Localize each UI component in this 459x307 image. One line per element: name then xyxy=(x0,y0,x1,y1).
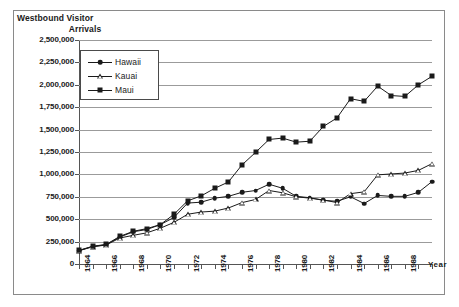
data-point-maui xyxy=(90,244,95,249)
x-axis-tick xyxy=(364,265,365,269)
data-point-hawaii xyxy=(267,182,272,187)
chart-title: Westbound Visitor Arrivals xyxy=(17,13,147,35)
data-point-kauai xyxy=(293,194,299,199)
data-point-maui xyxy=(117,234,122,239)
x-axis-tick xyxy=(310,265,311,269)
legend-item-maui: Maui xyxy=(81,83,158,97)
x-axis-tick xyxy=(133,265,134,269)
data-point-maui xyxy=(239,162,244,167)
data-point-maui xyxy=(158,222,163,227)
x-axis-tick xyxy=(79,265,80,269)
chart-title-line2: Arrivals xyxy=(17,24,147,35)
x-axis-tick xyxy=(106,265,107,269)
data-point-maui xyxy=(416,82,421,87)
data-point-hawaii xyxy=(212,196,217,201)
x-axis-label: 1984 xyxy=(355,255,364,272)
y-axis-label: 2,250,000 xyxy=(39,57,74,66)
x-axis-label: 1964 xyxy=(83,255,92,272)
y-axis-label: 1,250,000 xyxy=(39,147,74,156)
data-point-kauai xyxy=(185,212,191,217)
data-point-kauai xyxy=(198,210,204,215)
data-point-kauai xyxy=(171,220,177,225)
x-axis-tick xyxy=(323,265,324,269)
y-axis-labels: 2,500,0002,250,0002,000,0001,750,0001,50… xyxy=(0,40,74,265)
x-axis-label: 1980 xyxy=(300,255,309,272)
x-axis-tick xyxy=(283,265,284,269)
x-axis-tick xyxy=(418,265,419,269)
x-axis-tick xyxy=(296,265,297,269)
x-axis-tick xyxy=(337,265,338,269)
chart-title-line1: Westbound Visitor xyxy=(17,13,93,23)
legend-item-kauai: Kauai xyxy=(81,69,158,83)
data-point-kauai xyxy=(402,171,408,176)
data-point-maui xyxy=(185,198,190,203)
data-point-maui xyxy=(430,74,435,79)
x-axis-label: 1966 xyxy=(110,255,119,272)
x-axis-tick xyxy=(242,265,243,269)
data-point-maui xyxy=(280,136,285,141)
data-point-kauai xyxy=(388,171,394,176)
data-point-hawaii xyxy=(240,190,245,195)
data-point-maui xyxy=(77,248,82,253)
legend-label: Kauai xyxy=(113,71,137,81)
x-axis-tick xyxy=(391,265,392,269)
data-point-hawaii xyxy=(430,179,435,184)
data-point-maui xyxy=(172,212,177,217)
data-point-kauai xyxy=(239,200,245,205)
data-point-kauai xyxy=(361,189,367,194)
x-axis-tick xyxy=(378,265,379,269)
x-axis-tick xyxy=(188,265,189,269)
data-point-hawaii xyxy=(375,193,380,198)
x-axis-tick xyxy=(93,265,94,269)
data-point-kauai xyxy=(307,196,313,201)
y-axis-label: 0 xyxy=(70,259,74,268)
y-axis-label: 2,000,000 xyxy=(39,80,74,89)
x-axis-title: Year xyxy=(428,260,447,269)
data-point-kauai xyxy=(348,191,354,196)
chart-figure: Westbound Visitor Arrivals 2,500,0002,25… xyxy=(0,0,459,307)
legend-marker-open-triangle-icon xyxy=(87,70,113,82)
x-axis-label: 1982 xyxy=(327,255,336,272)
y-axis-label: 750,000 xyxy=(46,192,74,201)
data-point-hawaii xyxy=(389,194,394,199)
data-point-maui xyxy=(389,93,394,98)
x-axis-label: 1976 xyxy=(246,255,255,272)
x-axis-tick xyxy=(147,265,148,269)
data-point-maui xyxy=(131,229,136,234)
x-axis-tick xyxy=(174,265,175,269)
data-point-hawaii xyxy=(362,201,367,206)
data-point-maui xyxy=(226,180,231,185)
data-point-kauai xyxy=(225,206,231,211)
data-point-maui xyxy=(144,226,149,231)
x-axis-tick xyxy=(351,265,352,269)
data-point-maui xyxy=(321,124,326,129)
data-point-kauai xyxy=(375,172,381,177)
x-axis-label: 1968 xyxy=(137,255,146,272)
data-point-maui xyxy=(199,193,204,198)
data-point-kauai xyxy=(280,190,286,195)
data-point-maui xyxy=(307,139,312,144)
x-axis-tick xyxy=(160,265,161,269)
x-axis-tick xyxy=(269,265,270,269)
x-axis-tick xyxy=(256,265,257,269)
x-axis-tick xyxy=(215,265,216,269)
data-point-legend xyxy=(97,74,103,79)
x-axis-label: 1988 xyxy=(409,255,418,272)
data-point-hawaii xyxy=(416,190,421,195)
data-point-kauai xyxy=(320,197,326,202)
y-axis-label: 1,500,000 xyxy=(39,125,74,134)
x-axis-ticks xyxy=(79,265,433,270)
data-point-kauai xyxy=(334,200,340,205)
data-point-legend xyxy=(98,60,103,65)
x-axis-tick xyxy=(120,265,121,269)
data-point-kauai xyxy=(415,168,421,173)
x-axis-label: 1986 xyxy=(382,255,391,272)
data-point-kauai xyxy=(429,161,435,166)
y-axis-label: 1,000,000 xyxy=(39,169,74,178)
x-axis-tick xyxy=(405,265,406,269)
data-point-hawaii xyxy=(403,194,408,199)
data-point-maui xyxy=(348,96,353,101)
x-axis-label: 1974 xyxy=(219,255,228,272)
data-point-maui xyxy=(375,84,380,89)
data-point-maui xyxy=(334,115,339,120)
